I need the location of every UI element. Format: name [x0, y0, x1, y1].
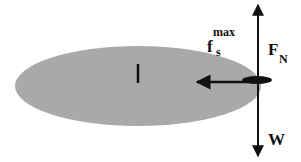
normal-force-label-sub: N — [279, 52, 288, 66]
disk-body — [15, 46, 261, 126]
friction-label-sup: max — [213, 25, 235, 39]
normal-force-label: F — [268, 40, 278, 59]
friction-label: f — [207, 37, 213, 56]
friction-label-sub: s — [216, 45, 221, 59]
contact-point — [242, 76, 272, 84]
free-body-diagram: f max s F N W — [0, 0, 301, 162]
weight-label: W — [268, 130, 285, 149]
